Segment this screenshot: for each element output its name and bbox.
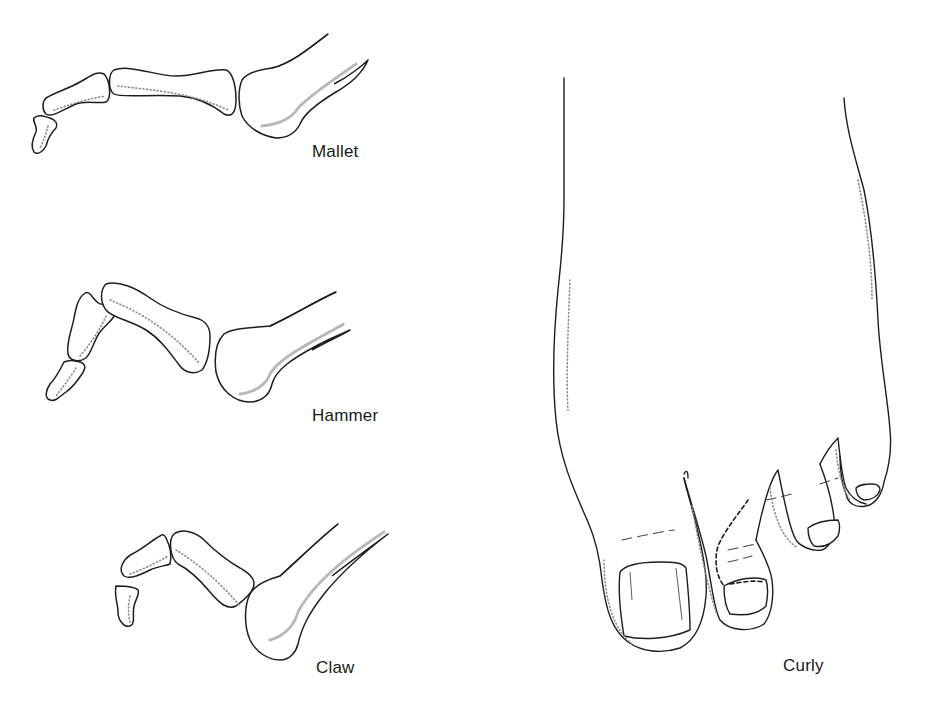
toe-deformities-figure: Mallet Hammer Claw [0, 0, 932, 703]
big-toe-crease [622, 530, 674, 540]
label-curly: Curly [783, 656, 824, 676]
foot-lateral-edge [840, 98, 891, 507]
third-toe-nail [808, 520, 840, 547]
little-toe-nail [856, 484, 880, 500]
curly-toe-foot-drawing [0, 0, 932, 703]
curly-toe-hidden-outline [716, 500, 748, 586]
